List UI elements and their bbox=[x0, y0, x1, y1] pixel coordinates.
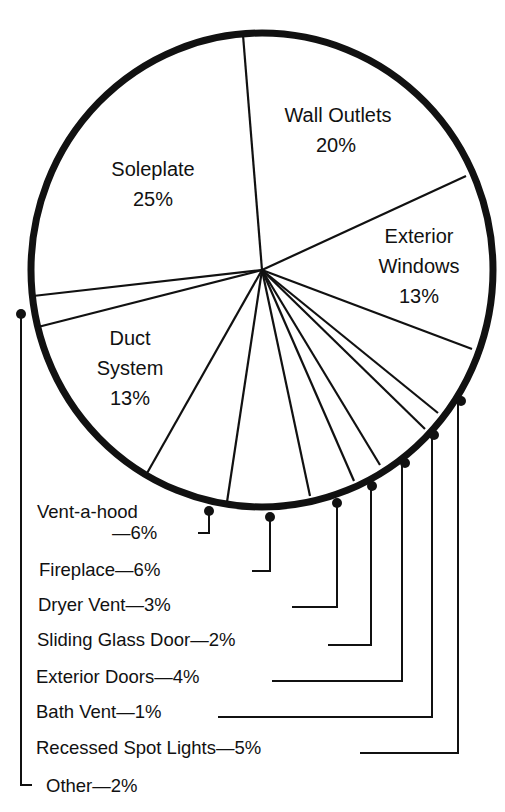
leader-sliding-glass-door bbox=[328, 487, 371, 645]
label-soleplate: Soleplate bbox=[111, 158, 194, 180]
legend-vent-a-hood-pct: —6% bbox=[112, 522, 157, 543]
legend-sliding-glass-door: Sliding Glass Door—2% bbox=[37, 629, 235, 650]
dot-recessed-spot-lights bbox=[456, 396, 466, 406]
legend-exterior-doors: Exterior Doors—4% bbox=[36, 666, 199, 687]
divider-duct-other bbox=[38, 270, 262, 327]
label-exterior-windows-pct: 13% bbox=[399, 285, 439, 307]
dot-dryer-vent bbox=[332, 498, 342, 508]
legend: Vent-a-hood —6% Fireplace—6% Dryer Vent—… bbox=[36, 501, 261, 796]
divider-exterior-windows-recessed bbox=[262, 270, 472, 349]
leader-other bbox=[21, 315, 32, 785]
leader-fireplace bbox=[252, 518, 270, 571]
legend-dryer-vent: Dryer Vent—3% bbox=[38, 594, 171, 615]
dot-exterior-doors bbox=[400, 458, 410, 468]
dot-bath-vent bbox=[429, 430, 439, 440]
dot-vent-a-hood bbox=[204, 506, 214, 516]
pie-chart: Wall Outlets 20% Soleplate 25% Exterior … bbox=[0, 0, 505, 812]
legend-other: Other—2% bbox=[46, 775, 138, 796]
legend-recessed-spot-lights: Recessed Spot Lights—5% bbox=[36, 737, 261, 758]
label-duct-system-1: Duct bbox=[109, 327, 151, 349]
label-duct-system-pct: 13% bbox=[110, 387, 150, 409]
label-soleplate-pct: 25% bbox=[133, 188, 173, 210]
divider-soleplate-wall-outlets bbox=[243, 35, 262, 270]
slice-labels: Wall Outlets 20% Soleplate 25% Exterior … bbox=[97, 104, 460, 409]
leader-dryer-vent bbox=[292, 504, 337, 607]
dot-sliding-glass-door bbox=[367, 481, 377, 491]
divider-sliding-dryer bbox=[262, 270, 354, 481]
dot-other bbox=[16, 309, 26, 319]
dot-fireplace bbox=[265, 512, 275, 522]
label-duct-system-2: System bbox=[97, 357, 164, 379]
legend-fireplace: Fireplace—6% bbox=[39, 559, 160, 580]
divider-other-soleplate bbox=[33, 270, 262, 296]
divider-fireplace-vent-a-hood bbox=[227, 270, 262, 502]
leader-bath-vent bbox=[218, 436, 432, 717]
legend-bath-vent: Bath Vent—1% bbox=[36, 701, 161, 722]
label-wall-outlets: Wall Outlets bbox=[284, 104, 391, 126]
label-exterior-windows-1: Exterior bbox=[385, 225, 454, 247]
divider-vent-a-hood-duct bbox=[146, 270, 262, 475]
legend-vent-a-hood: Vent-a-hood bbox=[37, 501, 138, 522]
label-exterior-windows-2: Windows bbox=[378, 255, 459, 277]
label-wall-outlets-pct: 20% bbox=[316, 134, 356, 156]
